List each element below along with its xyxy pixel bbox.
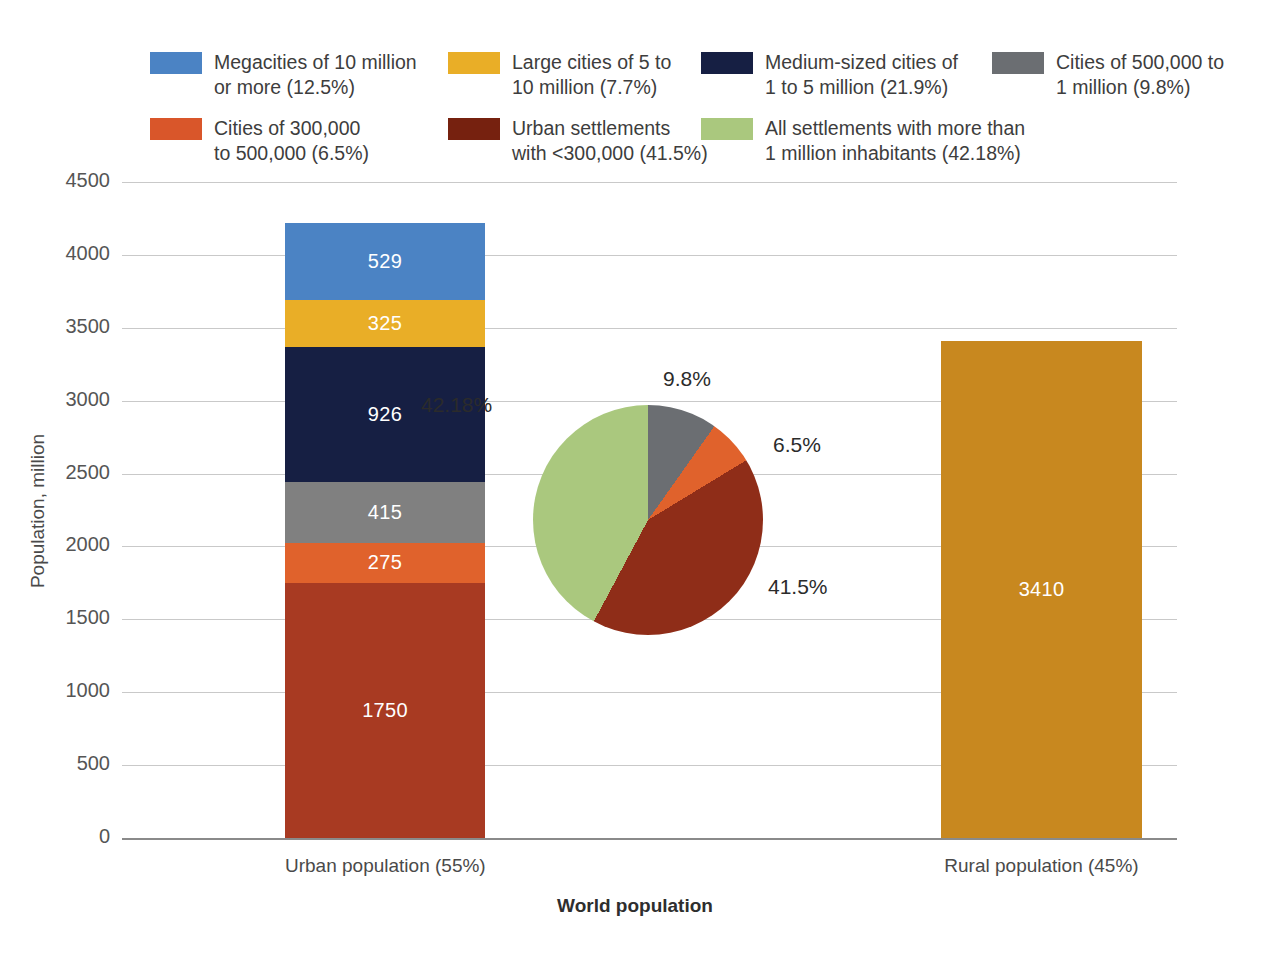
- bar-segment-value: 926: [368, 403, 402, 426]
- x-axis-label-urban: Urban population (55%): [285, 855, 485, 877]
- chart-plot-area: 050010001500200025003000350040004500 Pop…: [0, 0, 1270, 975]
- bar-segment[interactable]: 275: [285, 543, 485, 583]
- bar-segment[interactable]: 529: [285, 223, 485, 300]
- y-axis-tick-label: 2000: [40, 533, 110, 556]
- y-axis-tick-label: 2500: [40, 461, 110, 484]
- pie-chart[interactable]: 9.8% 6.5% 41.5% 42.18%: [533, 405, 763, 635]
- pie-label-cities-500k: 9.8%: [663, 367, 711, 391]
- bar-rural[interactable]: 3410: [941, 341, 1142, 838]
- gridline: [122, 182, 1177, 183]
- stacked-bar-urban[interactable]: 5293259264152751750: [285, 223, 485, 838]
- bar-segment-value: 275: [368, 551, 402, 574]
- bar-segment-value: 529: [368, 250, 402, 273]
- y-axis-tick-label: 4500: [40, 169, 110, 192]
- bar-segment[interactable]: 3410: [941, 341, 1142, 838]
- x-axis-title: World population: [0, 895, 1270, 917]
- y-axis-tick-label: 4000: [40, 242, 110, 265]
- pie-label-cities-300k: 6.5%: [773, 433, 821, 457]
- y-axis-tick-label: 0: [40, 825, 110, 848]
- gridline: [122, 255, 1177, 256]
- y-axis-tick-label: 3000: [40, 388, 110, 411]
- bar-segment-value: 1750: [362, 699, 408, 722]
- y-axis-tick-label: 3500: [40, 315, 110, 338]
- bar-segment[interactable]: 325: [285, 300, 485, 347]
- bar-segment[interactable]: 1750: [285, 583, 485, 838]
- pie-label-all-settlements: 42.18%: [421, 393, 492, 417]
- gridline: [122, 328, 1177, 329]
- bar-segment[interactable]: 415: [285, 482, 485, 542]
- y-axis-title: Population, million: [27, 381, 49, 641]
- bar-value-label: 3410: [1019, 578, 1065, 601]
- bar-segment-value: 415: [368, 501, 402, 524]
- x-axis-line: [122, 838, 1177, 840]
- bar-segment-value: 325: [368, 312, 402, 335]
- pie-label-urban-settlements: 41.5%: [768, 575, 828, 599]
- x-axis-label-rural: Rural population (45%): [941, 855, 1142, 877]
- y-axis-tick-label: 500: [40, 752, 110, 775]
- y-axis-tick-label: 1500: [40, 606, 110, 629]
- pie-circle[interactable]: [533, 405, 763, 635]
- y-axis-tick-label: 1000: [40, 679, 110, 702]
